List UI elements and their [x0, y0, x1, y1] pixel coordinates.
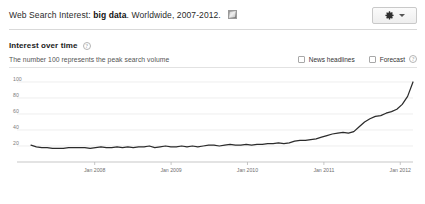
header-divider [9, 29, 417, 30]
section-subtitle: The number 100 represents the peak searc… [9, 56, 169, 63]
news-headlines-checkbox-box[interactable] [298, 56, 305, 63]
gear-icon [385, 11, 394, 20]
x-axis-tick-label: Jan 2009 [160, 167, 181, 173]
page-title: Web Search Interest: big data. Worldwide… [9, 10, 237, 20]
news-headlines-label: News headlines [309, 56, 355, 63]
interest-over-time-chart[interactable]: 20406080100 Jan 2008Jan 2009Jan 2010Jan … [9, 70, 417, 178]
x-axis-tick-label: Jan 2012 [390, 167, 411, 173]
page-title-suffix: . Worldwide, 2007-2012. [127, 10, 221, 20]
series-line-big-data [31, 82, 413, 148]
chart-xtick-labels: Jan 2008Jan 2009Jan 2010Jan 2011Jan 2012 [84, 162, 411, 173]
x-axis-tick-label: Jan 2008 [84, 167, 105, 173]
page-title-term: big data [93, 10, 126, 20]
y-axis-tick-label: 40 [13, 124, 19, 130]
panel-header: Web Search Interest: big data. Worldwide… [0, 0, 425, 30]
forecast-checkbox[interactable]: Forecast ? [369, 55, 417, 63]
section-title: Interest over time [9, 41, 78, 50]
y-axis-tick-label: 20 [13, 140, 19, 146]
settings-button[interactable] [372, 7, 417, 24]
x-axis-tick-label: Jan 2011 [313, 167, 334, 173]
help-icon[interactable]: ? [83, 42, 91, 50]
chart-gridlines [17, 82, 413, 146]
y-axis-tick-label: 80 [13, 92, 19, 98]
y-axis-tick-label: 60 [13, 108, 19, 114]
forecast-help-icon[interactable]: ? [409, 55, 417, 63]
chevron-down-icon [399, 14, 405, 17]
chart-ytick-labels: 20406080100 [13, 76, 22, 146]
news-headlines-checkbox[interactable]: News headlines [298, 56, 355, 63]
chart-controls: News headlines Forecast ? [298, 55, 417, 63]
y-axis-tick-label: 100 [13, 76, 22, 82]
subtitle-row: The number 100 represents the peak searc… [9, 55, 417, 63]
page-title-prefix: Web Search Interest: [9, 10, 93, 20]
section-title-row: Interest over time ? [9, 41, 417, 50]
forecast-checkbox-box[interactable] [369, 56, 376, 63]
x-axis-tick-label: Jan 2010 [237, 167, 258, 173]
interest-over-time-section: Interest over time ? The number 100 repr… [0, 30, 425, 68]
google-trends-panel: Web Search Interest: big data. Worldwide… [0, 0, 425, 204]
section-divider [9, 67, 417, 68]
chart-container: 20406080100 Jan 2008Jan 2009Jan 2010Jan … [0, 70, 425, 178]
embed-image-icon[interactable] [228, 10, 237, 19]
forecast-label: Forecast [380, 56, 405, 63]
